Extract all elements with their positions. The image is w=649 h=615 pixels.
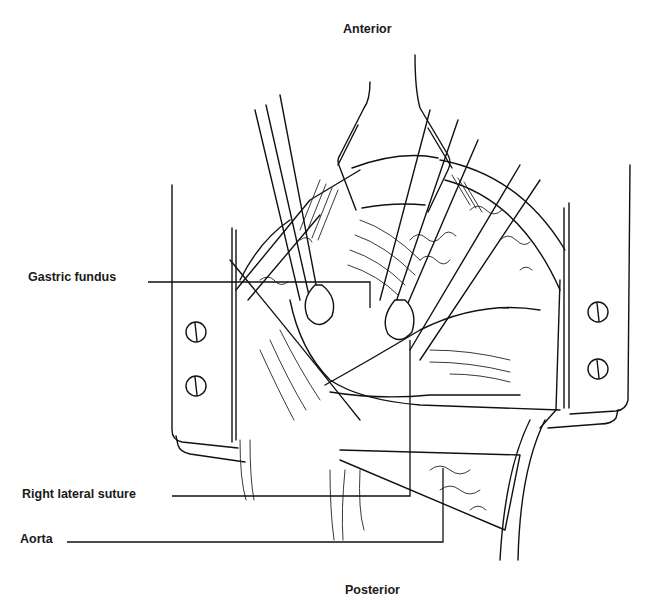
- left-retractor: [172, 185, 245, 462]
- surgical-illustration: [0, 0, 649, 615]
- right-retractor: [540, 165, 630, 428]
- wound-edges: [236, 160, 565, 300]
- leader-right-lateral-suture: [172, 340, 410, 496]
- instruments: [230, 95, 540, 420]
- posterior-structures: [240, 420, 545, 560]
